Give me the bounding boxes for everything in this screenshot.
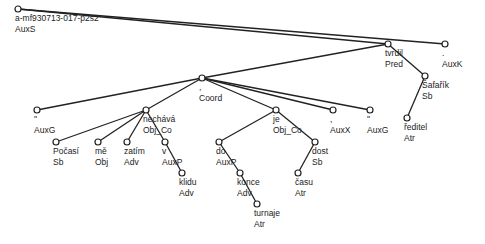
node-circle-icon[interactable] [34,107,40,113]
tree-edge [202,78,370,110]
node-afun-label: Atr [295,188,306,198]
node-form-label: ředitel [404,122,427,132]
tree-node-nechava[interactable]: necháváObj_Co [143,107,175,135]
node-afun-label: AuxP [216,157,237,167]
node-circle-icon[interactable] [199,75,205,81]
tree-edge [56,110,146,142]
tree-edge [98,110,146,142]
node-afun-label: AuxG [34,125,55,135]
node-afun-label: Adv [124,157,139,167]
node-afun-label: Atr [254,219,265,229]
node-form-label: v [162,146,167,156]
node-circle-icon[interactable] [273,107,279,113]
node-circle-icon[interactable] [254,201,260,207]
node-circle-icon[interactable] [385,41,391,47]
node-form-label: turnaje [254,208,280,218]
node-afun-label: AuxS [15,24,36,34]
node-form-label: Šafařík [422,80,450,90]
node-afun-label: Sb [422,91,433,101]
node-form-label: konce [237,177,260,187]
node-afun-label: Atr [404,133,415,143]
node-circle-icon[interactable] [95,139,101,145]
tree-node-pocasi[interactable]: PočasíSb [53,139,80,167]
tree-node-safarik[interactable]: ŠafaříkSb [422,73,450,101]
node-form-label: tvrdil [385,48,403,58]
node-form-label: , [199,82,201,92]
tree-node-klidu[interactable]: kliduAdv [179,170,197,198]
node-form-label: je [272,114,280,124]
node-afun-label: Adv [237,188,252,198]
tree-node-reditel[interactable]: ředitelAtr [404,115,427,143]
node-circle-icon[interactable] [15,6,21,12]
node-afun-label: AuxG [367,125,388,135]
tree-edge [202,44,388,78]
tree-node-v[interactable]: vAuxP [162,139,183,167]
tree-node-auxx[interactable]: ,AuxX [330,107,351,135]
node-form-label: " [34,114,37,124]
tree-node-auxg1[interactable]: "AuxG [34,107,55,135]
tree-node-zatim[interactable]: zatímAdv [124,139,145,167]
tree-node-me[interactable]: měObj [95,139,108,167]
node-circle-icon[interactable] [367,107,373,113]
node-form-label: do [216,146,226,156]
node-circle-icon[interactable] [422,73,428,79]
node-circle-icon[interactable] [295,170,301,176]
tree-node-auxg2[interactable]: "AuxG [367,107,388,135]
node-afun-label: AuxX [330,125,351,135]
node-circle-icon[interactable] [312,139,318,145]
node-form-label: zatím [124,146,145,156]
node-afun-label: Sb [312,157,323,167]
node-afun-label: Coord [199,93,222,103]
node-circle-icon[interactable] [143,107,149,113]
node-form-label: , [330,114,332,124]
node-afun-label: AuxP [162,157,183,167]
tree-node-dost[interactable]: dostSb [312,139,329,167]
node-afun-label: Obj [95,157,108,167]
node-circle-icon[interactable] [237,170,243,176]
node-circle-icon[interactable] [124,139,130,145]
tree-node-tvrdil[interactable]: tvrdilPred [385,41,403,69]
node-afun-label: Pred [385,59,403,69]
node-form-label: Počasí [53,146,80,156]
node-circle-icon[interactable] [216,139,222,145]
tree-node-konce[interactable]: konceAdv [237,170,260,198]
node-form-label: dost [312,146,329,156]
node-circle-icon[interactable] [179,170,185,176]
node-form-label: klidu [179,177,197,187]
node-form-label: " [367,114,370,124]
node-circle-icon[interactable] [404,115,410,121]
node-afun-label: Adv [179,188,194,198]
node-form-label: nechává [143,114,175,124]
node-circle-icon[interactable] [442,41,448,47]
tree-edge [219,110,276,142]
node-afun-label: Obj_Co [273,125,302,135]
tree-edge [37,78,202,110]
node-form-label: času [295,177,313,187]
node-circle-icon[interactable] [162,139,168,145]
tree-node-turnaje[interactable]: turnajeAtr [254,201,280,229]
node-afun-label: AuxK [442,59,463,69]
tree-edges [18,9,445,204]
node-circle-icon[interactable] [330,107,336,113]
dependency-tree: a-mf930713-017-p2s2AuxStvrdilPred.AuxKŠa… [0,0,485,244]
node-form-label: a-mf930713-017-p2s2 [15,13,99,23]
node-afun-label: Obj_Co [143,125,172,135]
node-form-label: mě [95,146,107,156]
node-circle-icon[interactable] [53,139,59,145]
tree-node-je[interactable]: jeObj_Co [272,107,302,135]
node-afun-label: Sb [53,157,64,167]
node-form-label: . [442,48,444,58]
tree-node-auxk[interactable]: .AuxK [442,41,463,69]
tree-node-casu[interactable]: časuAtr [295,170,313,198]
